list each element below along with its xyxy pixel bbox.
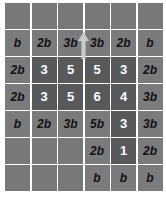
grid-cell (5, 138, 30, 164)
grid-cell-label: 4 (120, 90, 127, 103)
grid-cell: 1 (111, 138, 136, 164)
grid-cell: b (85, 165, 110, 191)
grid-cell-label: b (146, 37, 153, 49)
grid-cell (138, 3, 163, 29)
grid-cell: 3b (58, 111, 83, 137)
grid-cell-label: 2b (10, 64, 24, 76)
grid-cell: 3b (58, 30, 83, 56)
grid-cell-label: 2b (90, 145, 104, 157)
grid-cell (58, 3, 83, 29)
grid-cell-label: 5 (93, 63, 100, 76)
grid-cell-label: 5 (67, 63, 74, 76)
grid-cell-label: 3b (63, 37, 77, 49)
grid-cell: 2b (85, 138, 110, 164)
grid-cell-label: 2b (143, 64, 157, 76)
grid-cell: 3b (85, 30, 110, 56)
grid-cell: 3 (111, 111, 136, 137)
grid-cell: 4 (111, 84, 136, 110)
grid-cell-label: b (120, 172, 127, 184)
grid-cell-label: 5b (90, 118, 104, 130)
grid-figure: b2b3b3b2bb2b35532b2b35643bb2b3b5b33b2b12… (0, 0, 166, 201)
grid-cell-label: 3b (90, 37, 104, 49)
grid-cell-label: 5 (67, 90, 74, 103)
grid-cell: 2b (138, 138, 163, 164)
grid-cell-label: 3b (143, 91, 157, 103)
grid-cell-label: 3b (143, 118, 157, 130)
grid-cell: 3b (138, 111, 163, 137)
grid-cell-label: 2b (143, 145, 157, 157)
grid-cell-label: 3 (40, 90, 47, 103)
grid-cell (5, 3, 30, 29)
grid-cell: b (111, 165, 136, 191)
grid-cell (32, 138, 57, 164)
grid-cell: 2b (5, 84, 30, 110)
grid-cell (111, 3, 136, 29)
grid-cell: 3 (111, 57, 136, 83)
grid-cell: b (5, 111, 30, 137)
grid-cell: 2b (32, 30, 57, 56)
grid-cell-label: b (14, 118, 21, 130)
grid-cell-label: b (146, 172, 153, 184)
grid-cell-label: 3 (120, 63, 127, 76)
grid-cell: b (138, 165, 163, 191)
grid-cell-label: 6 (93, 90, 100, 103)
grid-cell: 5 (85, 57, 110, 83)
cell-grid: b2b3b3b2bb2b35532b2b35643bb2b3b5b33b2b12… (5, 3, 163, 191)
grid-cell (32, 165, 57, 191)
grid-cell: 3 (32, 57, 57, 83)
grid-cell: 6 (85, 84, 110, 110)
grid-cell: 2b (138, 57, 163, 83)
grid-cell: 5 (58, 57, 83, 83)
grid-cell (5, 165, 30, 191)
grid-cell: 2b (111, 30, 136, 56)
grid-cell-label: 1 (120, 144, 127, 157)
grid-cell-label: 3b (63, 118, 77, 130)
grid-cell-label: b (93, 172, 100, 184)
grid-cell-label: 3 (120, 117, 127, 130)
grid-cell: 5 (58, 84, 83, 110)
grid-cell: b (138, 30, 163, 56)
grid-cell (58, 165, 83, 191)
grid-cell-label: 2b (37, 37, 51, 49)
grid-cell: 3b (138, 84, 163, 110)
grid-cell: 2b (32, 111, 57, 137)
grid-cell (85, 3, 110, 29)
grid-cell-label: 2b (37, 118, 51, 130)
grid-cell-label: b (14, 37, 21, 49)
grid-cell: 5b (85, 111, 110, 137)
grid-cell: b (5, 30, 30, 56)
grid-cell-label: 3 (40, 63, 47, 76)
grid-cell: 2b (5, 57, 30, 83)
grid-cell-label: 2b (116, 37, 130, 49)
grid-cell (58, 138, 83, 164)
grid-cell: 3 (32, 84, 57, 110)
grid-cell-label: 2b (10, 91, 24, 103)
grid-cell (32, 3, 57, 29)
